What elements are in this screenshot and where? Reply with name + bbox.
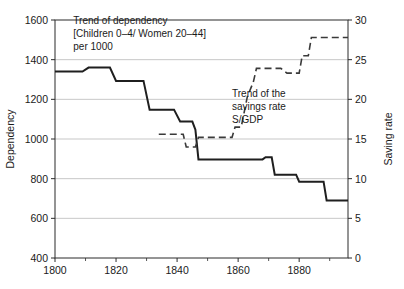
y-axis-left-ticks: 4006008001000120014001600 xyxy=(25,14,55,264)
x-axis-tick-label: 1820 xyxy=(104,264,128,276)
y-axis-left-tick-label: 1400 xyxy=(25,54,49,66)
y-axis-left-title: Dependency xyxy=(4,109,16,169)
gridlines-group xyxy=(55,60,348,219)
x-axis-tick-label: 1840 xyxy=(165,264,189,276)
y-axis-left-tick-label: 1600 xyxy=(25,14,49,26)
savings-annotation-line: savings rate xyxy=(232,101,286,112)
dependency-annotation-line: Trend of dependency xyxy=(73,15,167,26)
savings-annotation-line: Trend of the xyxy=(232,88,286,99)
y-axis-left-tick-label: 800 xyxy=(30,173,48,185)
dependency-annotation-line: [Children 0–4/ Women 20–44] xyxy=(73,28,206,39)
x-axis-ticks: 18001820184018601880 xyxy=(43,258,329,276)
x-axis-tick-label: 1860 xyxy=(226,264,250,276)
y-axis-left-tick-label: 1200 xyxy=(25,93,49,105)
y-axis-right-tick-label: 0 xyxy=(355,252,361,264)
x-axis-tick-label: 1800 xyxy=(43,264,67,276)
chart-container: 4006008001000120014001600 051015202530 1… xyxy=(0,0,404,289)
y-axis-right-tick-label: 20 xyxy=(355,93,367,105)
annotations-group: Trend of dependency[Children 0–4/ Women … xyxy=(73,15,286,125)
series-line-dependency xyxy=(55,68,348,201)
y-axis-right-tick-label: 5 xyxy=(355,212,361,224)
y-axis-right-tick-label: 30 xyxy=(355,14,367,26)
y-axis-right-tick-label: 10 xyxy=(355,173,367,185)
y-axis-right-tick-label: 15 xyxy=(355,133,367,145)
series-group xyxy=(55,37,348,200)
y-axis-left-tick-label: 1000 xyxy=(25,133,49,145)
y-axis-left-tick-label: 600 xyxy=(30,212,48,224)
savings-annotation-line: S/GDP xyxy=(232,114,263,125)
dependency-annotation-line: per 1000 xyxy=(73,41,113,52)
y-axis-right-ticks: 051015202530 xyxy=(348,14,367,264)
y-axis-right-tick-label: 25 xyxy=(355,54,367,66)
x-axis-tick-label: 1880 xyxy=(287,264,311,276)
y-axis-left-tick-label: 400 xyxy=(30,252,48,264)
dependency-savings-rate-chart: 4006008001000120014001600 051015202530 1… xyxy=(0,0,404,289)
y-axis-right-title: Saving rate xyxy=(382,112,394,165)
